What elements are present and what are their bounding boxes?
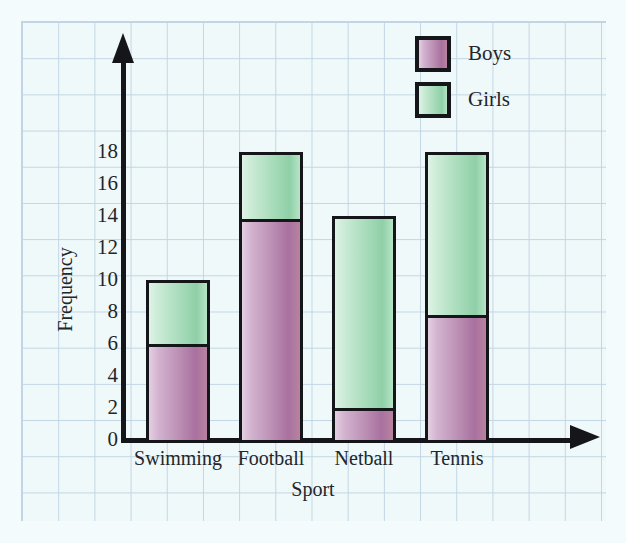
y-axis-line: [121, 60, 126, 443]
y-tick-label: 14: [82, 205, 118, 226]
chart-legend: Boys Girls: [412, 36, 587, 126]
legend-swatch-boys: [415, 36, 451, 72]
bar-segment-boys[interactable]: [239, 219, 303, 443]
y-tick-label: 8: [82, 301, 118, 322]
bar-segment-girls[interactable]: [425, 152, 489, 318]
y-axis-title: Frequency: [54, 210, 77, 370]
bar-segment-boys[interactable]: [146, 344, 210, 443]
y-tick-label: 10: [82, 269, 118, 290]
legend-item-boys: Boys: [412, 36, 587, 74]
legend-label-girls: Girls: [468, 87, 510, 112]
x-tick-label: Tennis: [401, 447, 513, 469]
bar-segment-girls[interactable]: [332, 216, 396, 411]
y-tick-label: 18: [82, 141, 118, 162]
y-tick-label: 16: [82, 173, 118, 194]
y-tick-label: 4: [82, 365, 118, 386]
legend-item-girls: Girls: [412, 82, 587, 120]
bar-football[interactable]: [239, 152, 303, 440]
bar-netball[interactable]: [332, 216, 396, 440]
bar-swimming[interactable]: [146, 280, 210, 440]
bar-segment-girls[interactable]: [146, 280, 210, 347]
bar-segment-girls[interactable]: [239, 152, 303, 222]
bar-segment-boys[interactable]: [332, 408, 396, 443]
arrow-right-icon: [570, 425, 600, 449]
legend-swatch-girls: [415, 82, 451, 118]
legend-label-boys: Boys: [468, 41, 511, 66]
bar-segment-boys[interactable]: [425, 315, 489, 443]
y-tick-label: 0: [82, 429, 118, 450]
y-tick-label: 2: [82, 397, 118, 418]
y-tick-label: 6: [82, 333, 118, 354]
x-axis-title: Sport: [0, 478, 626, 501]
y-tick-labels: 181614121086420: [78, 0, 118, 543]
chart-page: 181614121086420 SwimmingFootballNetballT…: [0, 0, 626, 543]
bar-tennis[interactable]: [425, 152, 489, 440]
plot-area: 181614121086420 SwimmingFootballNetballT…: [0, 0, 626, 543]
y-tick-label: 12: [82, 237, 118, 258]
